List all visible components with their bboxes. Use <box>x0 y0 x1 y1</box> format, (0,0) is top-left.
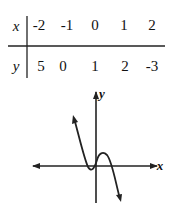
x-value: -2 <box>28 17 50 33</box>
x-value: -1 <box>56 17 78 33</box>
x-value: 0 <box>84 17 106 33</box>
coordinate-axes <box>32 91 158 203</box>
x-axis-left-arrow-icon <box>32 163 40 169</box>
row-label-x: x <box>5 18 27 34</box>
row-label-y: y <box>5 58 27 74</box>
curve-start-arrow-icon <box>72 115 78 124</box>
y-value: 1 <box>84 58 106 74</box>
y-value: 2 <box>114 58 136 74</box>
function-curve <box>72 115 122 202</box>
y-value: 5 <box>30 58 52 74</box>
x-value: 1 <box>113 17 135 33</box>
curve-end-arrow-icon <box>116 194 122 202</box>
y-axis-label: y <box>91 86 113 102</box>
y-value: -3 <box>141 58 163 74</box>
y-value: 0 <box>52 58 74 74</box>
x-axis-label: x <box>153 158 167 174</box>
x-value: 2 <box>141 17 163 33</box>
